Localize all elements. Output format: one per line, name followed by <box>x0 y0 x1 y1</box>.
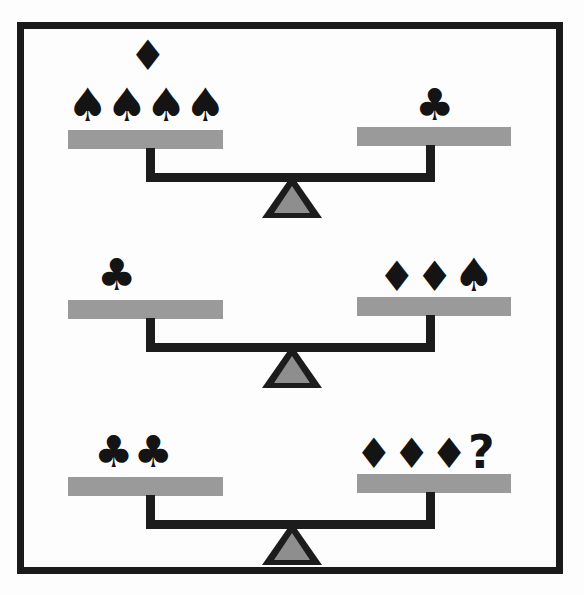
club-icon: ♣ <box>97 256 136 294</box>
diamond-icon: ♦ <box>393 436 431 472</box>
scale-three-fulcrum <box>262 522 322 565</box>
scale-three-left-items: ♣ ♣ <box>94 433 173 471</box>
spade-icon: ♠ <box>453 256 492 296</box>
spade-icon: ♠ <box>106 86 145 126</box>
diamond-icon: ♦ <box>355 436 393 472</box>
scale-one-left-pan <box>68 130 223 149</box>
scale-three-left-pan <box>68 477 223 496</box>
scale-three-right-items: ♦ ♦ ♦ ? <box>355 433 495 473</box>
puzzle-page: ♦ ♠ ♠ ♠ ♠ ♣ <box>0 0 584 595</box>
scale-two-left-items: ♣ <box>97 256 136 294</box>
spade-icon: ♠ <box>146 86 185 126</box>
diamond-icon: ♦ <box>416 259 454 295</box>
diamond-icon: ♦ <box>430 436 468 472</box>
spade-icon: ♠ <box>185 86 224 126</box>
scale-one-left-above-group: ♦ <box>129 38 167 74</box>
puzzle-area: ♦ ♠ ♠ ♠ ♠ ♣ <box>0 0 584 595</box>
scale-three: ♣ ♣ ♦ ♦ ♦ ? <box>0 355 584 505</box>
spade-icon: ♠ <box>67 86 106 126</box>
scale-two: ♣ ♦ ♦ ♠ <box>0 182 584 332</box>
scale-one-left-items: ♠ ♠ ♠ ♠ <box>67 86 224 126</box>
club-icon: ♣ <box>415 86 454 124</box>
diamond-icon: ♦ <box>378 259 416 295</box>
scale-three-right-pan <box>357 474 511 493</box>
scale-one-right-items: ♣ <box>415 86 454 124</box>
club-icon: ♣ <box>94 433 133 471</box>
question-mark-placeholder: ? <box>468 433 495 473</box>
scale-two-left-pan <box>68 300 223 319</box>
diamond-icon: ♦ <box>129 38 167 74</box>
fulcrum-triangle-fill <box>274 533 310 560</box>
scale-two-right-items: ♦ ♦ ♠ <box>378 256 493 296</box>
scale-one-right-pan <box>357 127 511 146</box>
club-icon: ♣ <box>133 433 172 471</box>
scale-two-right-pan <box>357 297 511 316</box>
scale-one: ♦ ♠ ♠ ♠ ♠ ♣ <box>0 0 584 150</box>
